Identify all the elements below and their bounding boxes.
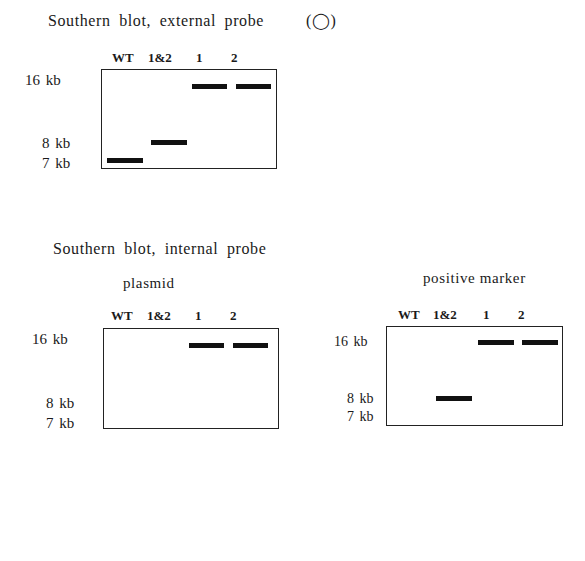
lane-label-wt: WT [112, 50, 134, 66]
band-1and2-8kb [151, 140, 187, 145]
band-2-16kb [233, 343, 268, 348]
lane-label-2: 2 [518, 307, 525, 323]
band-2-16kb [236, 84, 271, 89]
gel-frame [386, 326, 563, 426]
band-2-16kb [522, 340, 558, 345]
size-marker-8kb: 8 kb [42, 135, 70, 152]
band-1-16kb [478, 340, 514, 345]
lane-label-wt: WT [398, 307, 420, 323]
external-probe-title: Southern blot, external probe [48, 12, 264, 30]
gel-frame [101, 69, 277, 169]
lane-label-1and2: 1&2 [148, 50, 172, 66]
size-marker-16kb: 16 kb [25, 72, 61, 89]
band-wt-7kb [107, 158, 143, 163]
lane-label-1and2: 1&2 [147, 308, 171, 324]
size-marker-7kb: 7 kb [46, 415, 74, 432]
lane-label-1: 1 [196, 50, 203, 66]
lane-label-1: 1 [195, 308, 202, 324]
size-marker-16kb: 16 kb [334, 334, 368, 350]
positive-marker-title: positive marker [423, 270, 526, 287]
lane-label-wt: WT [111, 308, 133, 324]
band-1and2-8kb [436, 396, 472, 401]
circle-symbol-icon: (◯) [306, 11, 336, 30]
size-marker-7kb: 7 kb [347, 409, 374, 425]
size-marker-8kb: 8 kb [347, 391, 374, 407]
band-1-16kb [192, 84, 227, 89]
plasmid-title: plasmid [123, 275, 175, 292]
internal-probe-title: Southern blot, internal probe [53, 240, 266, 258]
size-marker-7kb: 7 kb [42, 155, 70, 172]
lane-label-1and2: 1&2 [433, 307, 457, 323]
gel-frame [103, 328, 279, 429]
lane-label-2: 2 [231, 50, 238, 66]
size-marker-8kb: 8 kb [46, 395, 74, 412]
lane-label-1: 1 [483, 307, 490, 323]
band-1-16kb [189, 343, 224, 348]
lane-label-2: 2 [230, 308, 237, 324]
size-marker-16kb: 16 kb [32, 331, 68, 348]
